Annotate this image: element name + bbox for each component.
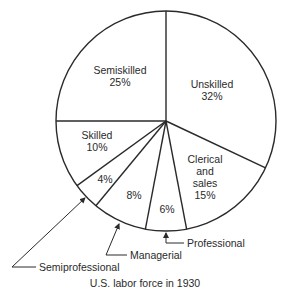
callout-semiprofessional: Semiprofessional — [39, 261, 120, 273]
slice-label-semiprofessional-pct: 4% — [97, 173, 112, 185]
slice-label-managerial-pct: 8% — [126, 189, 141, 201]
semiskilled-pct: 25% — [93, 76, 146, 88]
skilled-pct: 10% — [82, 141, 113, 153]
semiprofessional-leader-line — [12, 198, 85, 267]
semiskilled-name: Semiskilled — [93, 64, 146, 76]
slice-label-unskilled: Unskilled 32% — [191, 78, 234, 102]
slice-label-professional-pct: 6% — [159, 203, 174, 215]
professional-leader-line — [166, 233, 184, 243]
callout-professional: Professional — [187, 237, 245, 249]
clerical-pct: 15% — [187, 189, 222, 201]
pie-chart-figure: Semiskilled 25% Unskilled 32% Skilled 10… — [0, 0, 285, 292]
chart-caption: U.S. labor force in 1930 — [90, 277, 200, 289]
unskilled-name: Unskilled — [191, 78, 234, 90]
managerial-leader-line — [106, 224, 127, 255]
clerical-line2: and — [187, 165, 222, 177]
clerical-line1: Clerical — [187, 153, 222, 165]
callout-managerial: Managerial — [130, 249, 182, 261]
clerical-line3: sales — [187, 177, 222, 189]
slice-label-semiskilled: Semiskilled 25% — [93, 64, 146, 88]
unskilled-pct: 32% — [191, 90, 234, 102]
slice-label-clerical-and-sales: Clerical and sales 15% — [187, 153, 222, 201]
slice-label-skilled: Skilled 10% — [82, 129, 113, 153]
skilled-name: Skilled — [82, 129, 113, 141]
